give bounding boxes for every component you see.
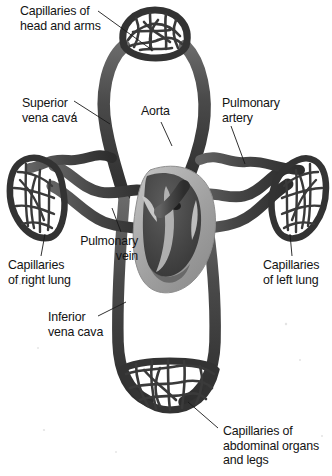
label-capillaries-abdominal-organs-and-legs: Capillaries of abdominal organs and legs — [223, 424, 319, 468]
label-capillaries-right-lung: Capillaries of right lung — [8, 258, 71, 287]
label-pulmonary-vein: Pulmonary vein — [60, 234, 138, 263]
label-superior-vena-cava: Superior vena cava — [22, 96, 77, 125]
label-capillaries-head-and-arms: Capillaries of head and arms — [20, 4, 101, 33]
label-aorta: Aorta — [141, 104, 170, 119]
circulatory-system-diagram — [0, 0, 332, 476]
label-capillaries-left-lung: Capillaries of left lung — [263, 258, 319, 287]
label-inferior-vena-cava: Inferior vena cava — [48, 310, 103, 339]
label-pulmonary-artery: Pulmonary artery — [222, 96, 280, 125]
